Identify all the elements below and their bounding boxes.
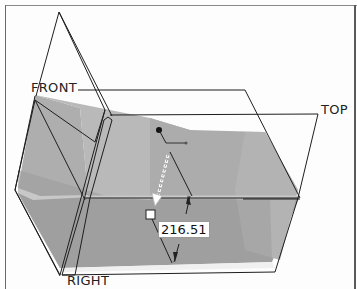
front-plane-label[interactable]: FRONT [31,81,77,94]
dimension-value[interactable]: 216.51 [158,221,210,238]
right-plane-label[interactable]: RIGHT [67,274,109,287]
top-plane-label[interactable]: TOP [321,103,348,116]
model-scene [0,0,357,289]
graphics-viewport[interactable]: FRONT TOP RIGHT 216.51 [0,0,357,289]
drag-handle[interactable] [146,210,155,219]
